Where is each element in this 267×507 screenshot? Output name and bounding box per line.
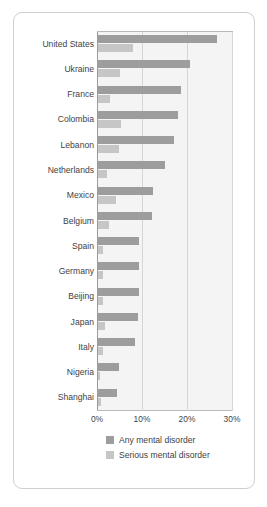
bar-serious-mental-disorder — [98, 271, 103, 279]
bar-group — [98, 133, 233, 158]
x-tick-label: 30% — [224, 413, 241, 425]
bar-serious-mental-disorder — [98, 398, 101, 406]
category-label: Belgium — [16, 216, 94, 226]
bar-any-mental-disorder — [98, 111, 178, 119]
bar-group — [98, 32, 233, 57]
bar-any-mental-disorder — [98, 86, 181, 94]
bar-group — [98, 57, 233, 82]
bar-group — [98, 108, 233, 133]
category-label: Mexico — [16, 190, 94, 200]
category-label: Colombia — [16, 114, 94, 124]
bar-any-mental-disorder — [98, 313, 138, 321]
legend-label: Serious mental disorder — [119, 450, 210, 460]
category-label: Lebanon — [16, 140, 94, 150]
x-tick-label: 10% — [134, 413, 151, 425]
bar-any-mental-disorder — [98, 161, 165, 169]
bar-serious-mental-disorder — [98, 196, 116, 204]
category-label: Netherlands — [16, 165, 94, 175]
bar-group — [98, 386, 233, 411]
category-label: Shanghai — [16, 392, 94, 402]
chart-card: United StatesUkraineFranceColombiaLebano… — [13, 12, 255, 489]
grouped-bar-chart: United StatesUkraineFranceColombiaLebano… — [14, 13, 256, 490]
bar-group — [98, 259, 233, 284]
bar-serious-mental-disorder — [98, 120, 121, 128]
bar-any-mental-disorder — [98, 35, 217, 43]
bar-any-mental-disorder — [98, 212, 152, 220]
x-tick-label: 20% — [179, 413, 196, 425]
bar-group — [98, 83, 233, 108]
bar-serious-mental-disorder — [98, 297, 103, 305]
category-label: Ukraine — [16, 64, 94, 74]
bar-serious-mental-disorder — [98, 322, 105, 330]
legend-swatch-icon — [106, 436, 114, 444]
bar-group — [98, 285, 233, 310]
bar-serious-mental-disorder — [98, 246, 103, 254]
category-label: Japan — [16, 317, 94, 327]
category-label: Spain — [16, 241, 94, 251]
category-label: United States — [16, 39, 94, 49]
bar-any-mental-disorder — [98, 288, 139, 296]
bar-any-mental-disorder — [98, 262, 139, 270]
bar-serious-mental-disorder — [98, 372, 100, 380]
category-label: Germany — [16, 266, 94, 276]
bar-any-mental-disorder — [98, 187, 153, 195]
category-label: Nigeria — [16, 367, 94, 377]
bar-serious-mental-disorder — [98, 170, 107, 178]
legend-label: Any mental disorder — [119, 435, 195, 445]
bar-any-mental-disorder — [98, 363, 119, 371]
chart-legend: Any mental disorderSerious mental disord… — [106, 432, 256, 462]
bar-any-mental-disorder — [98, 389, 117, 397]
bar-group — [98, 158, 233, 183]
chart-page: United StatesUkraineFranceColombiaLebano… — [0, 0, 267, 507]
bar-any-mental-disorder — [98, 237, 139, 245]
plot-area — [97, 31, 233, 411]
bar-serious-mental-disorder — [98, 69, 120, 77]
x-tick-label: 0% — [91, 413, 103, 425]
legend-item: Any mental disorder — [106, 432, 256, 447]
bar-group — [98, 310, 233, 335]
bar-serious-mental-disorder — [98, 221, 109, 229]
bar-any-mental-disorder — [98, 60, 190, 68]
category-label: Beijing — [16, 291, 94, 301]
bar-any-mental-disorder — [98, 136, 174, 144]
category-axis-labels: United StatesUkraineFranceColombiaLebano… — [14, 31, 94, 410]
bar-group — [98, 209, 233, 234]
bar-serious-mental-disorder — [98, 44, 133, 52]
bar-serious-mental-disorder — [98, 95, 110, 103]
legend-item: Serious mental disorder — [106, 447, 256, 462]
bar-group — [98, 234, 233, 259]
bar-any-mental-disorder — [98, 338, 135, 346]
bar-serious-mental-disorder — [98, 347, 103, 355]
category-label: France — [16, 89, 94, 99]
bar-serious-mental-disorder — [98, 145, 119, 153]
bar-group — [98, 360, 233, 385]
x-axis-tick-labels: 0%10%20%30% — [97, 413, 257, 427]
legend-swatch-icon — [106, 451, 114, 459]
category-label: Italy — [16, 342, 94, 352]
bar-group — [98, 335, 233, 360]
bar-group — [98, 184, 233, 209]
